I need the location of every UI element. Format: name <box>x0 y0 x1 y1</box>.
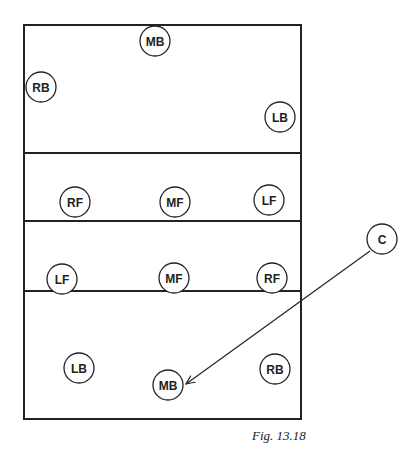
position-label: LF <box>55 273 70 287</box>
player-rb: RB <box>26 72 56 102</box>
position-label: LB <box>272 111 288 125</box>
player-mf: MF <box>160 187 190 217</box>
player-lf: LF <box>254 185 284 215</box>
position-label: MF <box>165 272 182 286</box>
position-label: LB <box>71 362 87 376</box>
position-label: MB <box>159 379 178 393</box>
player-rf: RF <box>60 187 90 217</box>
position-label: RF <box>67 196 83 210</box>
position-label: RB <box>266 363 284 377</box>
player-rf: RF <box>257 263 287 293</box>
position-label: RF <box>264 272 280 286</box>
position-label: MB <box>146 35 165 49</box>
player-lb: LB <box>265 102 295 132</box>
volleyball-court-diagram: MBRBLBRFMFLFLFMFRFLBMBRBC <box>0 0 419 453</box>
coach-marker: C <box>367 224 397 254</box>
figure-caption: Fig. 13.18 <box>252 428 306 444</box>
player-lf: LF <box>47 264 77 294</box>
player-mf: MF <box>159 263 189 293</box>
position-label: C <box>378 233 387 247</box>
player-lb: LB <box>64 353 94 383</box>
player-mb: MB <box>153 370 183 400</box>
position-label: LF <box>262 194 277 208</box>
position-label: RB <box>32 81 50 95</box>
player-rb: RB <box>260 354 290 384</box>
player-mb: MB <box>140 26 170 56</box>
position-label: MF <box>166 196 183 210</box>
